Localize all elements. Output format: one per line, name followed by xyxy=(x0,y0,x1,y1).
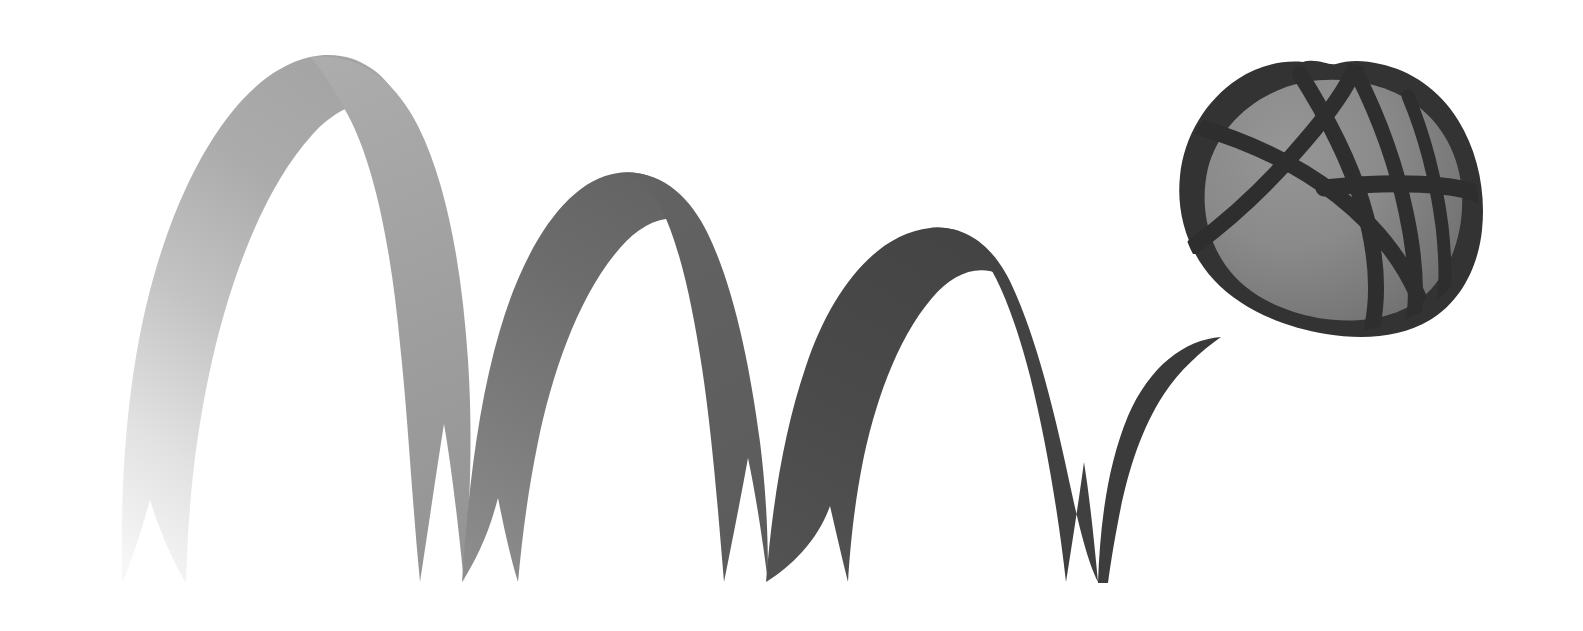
illustration-root: A basketball trajectory illustration sho… xyxy=(0,0,1583,631)
bouncing-ball-illustration: Bouncing Basketball Motion Illustration xyxy=(0,0,1583,631)
